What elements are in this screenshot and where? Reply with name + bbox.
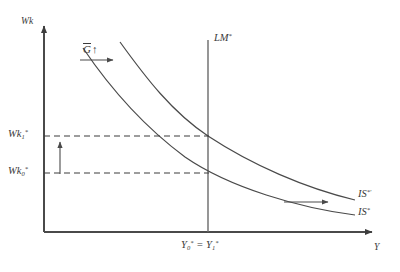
- is-star-original-label-base: IS: [358, 206, 367, 217]
- g-shock-symbol: G: [83, 43, 91, 55]
- x-tick-y1-sup: *: [216, 239, 219, 246]
- g-shock-annotation: G↑: [83, 43, 97, 55]
- is-star-original-label: IS*: [358, 207, 370, 218]
- x-tick-y0-base: Y: [181, 239, 187, 250]
- y-tick-wk1-base: Wk: [8, 128, 21, 139]
- x-tick-label-y0-eq-y1: Y0* = Y1*: [181, 240, 219, 251]
- x-tick-y1-sub: 1: [212, 244, 215, 251]
- lm-star-label: LM*: [214, 33, 232, 44]
- figure-canvas: Wk Y LM* IS*′ IS* Wk1* Wk0* Y0* = Y1* G↑: [0, 0, 400, 272]
- g-shock-up-arrow-icon: ↑: [92, 43, 98, 55]
- x-axis-label: Y: [374, 243, 379, 253]
- y-tick-wk0-sup: *: [25, 165, 28, 172]
- x-tick-equals: =: [194, 239, 206, 250]
- y-tick-label-wk0: Wk0*: [8, 166, 28, 177]
- is-star-shifted-curve: [120, 42, 355, 200]
- y-tick-wk0-base: Wk: [8, 165, 21, 176]
- y-tick-label-wk1: Wk1*: [8, 129, 28, 140]
- is-lm-plot: [0, 0, 400, 272]
- lm-star-label-sup: *: [229, 32, 232, 39]
- is-star-original-label-sup: *: [367, 206, 370, 213]
- is-star-shifted-label-base: IS: [358, 188, 367, 199]
- is-star-shifted-label-sup: *′: [367, 188, 372, 195]
- is-star-original-curve: [83, 48, 355, 215]
- y-axis-label: Wk: [21, 17, 33, 27]
- y-tick-wk1-sup: *: [25, 128, 28, 135]
- lm-star-label-base: LM: [214, 32, 229, 43]
- is-star-shifted-label: IS*′: [358, 189, 372, 200]
